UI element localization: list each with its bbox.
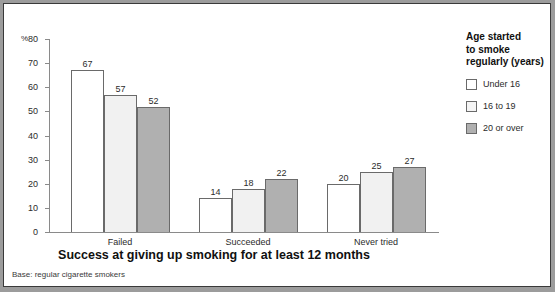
bar: 18 xyxy=(232,189,265,232)
legend-item: 16 to 19 xyxy=(466,101,551,112)
x-axis-line xyxy=(49,232,439,233)
legend: Age started to smoke regularly (years) U… xyxy=(466,31,551,145)
bar-value-label: 52 xyxy=(148,96,158,106)
x-axis-category-label: Never tried xyxy=(354,237,398,247)
y-axis-tick-label: 30 xyxy=(28,155,38,165)
bar: 27 xyxy=(393,167,426,232)
bar-value-label: 22 xyxy=(276,168,286,178)
y-axis-tick: 40 xyxy=(45,136,50,137)
x-axis-category-label: Succeeded xyxy=(225,237,270,247)
y-axis-tick: 70 xyxy=(45,63,50,64)
y-axis-tick: 30 xyxy=(45,160,50,161)
chart-frame: % 01020304050607080 675752Failed141822Su… xyxy=(3,3,551,287)
y-axis-tick: 50 xyxy=(45,111,50,112)
x-axis-category-label: Failed xyxy=(108,237,133,247)
bar: 57 xyxy=(104,95,137,233)
bar-group: 202527Never tried xyxy=(327,39,426,232)
bar: 67 xyxy=(71,70,104,232)
y-axis-tick-label: 10 xyxy=(28,203,38,213)
bar: 25 xyxy=(360,172,393,232)
bar-value-label: 20 xyxy=(338,173,348,183)
bar-group: 675752Failed xyxy=(71,39,170,232)
legend-item-label: 20 or over xyxy=(483,123,524,133)
bar-group: 141822Succeeded xyxy=(199,39,298,232)
chart-title: Success at giving up smoking for at leas… xyxy=(4,248,424,262)
y-axis-tick: 60 xyxy=(45,87,50,88)
y-axis-tick: 80 xyxy=(45,39,50,40)
bar-value-label: 57 xyxy=(115,84,125,94)
legend-swatch xyxy=(466,101,477,112)
bar-value-label: 25 xyxy=(371,161,381,171)
bar-value-label: 14 xyxy=(210,187,220,197)
bar: 14 xyxy=(199,198,232,232)
legend-swatch xyxy=(466,79,477,90)
legend-title-line-1: Age started xyxy=(466,31,551,44)
bar: 52 xyxy=(137,107,170,232)
y-axis-tick-label: 0 xyxy=(33,227,38,237)
y-axis-tick: 20 xyxy=(45,184,50,185)
y-axis-tick-label: 70 xyxy=(28,58,38,68)
legend-item: Under 16 xyxy=(466,79,551,90)
legend-item-label: Under 16 xyxy=(483,79,520,89)
legend-swatch xyxy=(466,123,477,134)
bar: 22 xyxy=(265,179,298,232)
figure-outer-border: % 01020304050607080 675752Failed141822Su… xyxy=(0,0,555,292)
bar-value-label: 27 xyxy=(404,156,414,166)
y-axis-tick-label: 80 xyxy=(28,34,38,44)
y-axis-tick-label: 40 xyxy=(28,131,38,141)
bar-value-label: 18 xyxy=(243,178,253,188)
y-axis-tick: 10 xyxy=(45,208,50,209)
legend-title-line-3: regularly (years) xyxy=(466,56,551,69)
bar-value-label: 67 xyxy=(82,59,92,69)
plot-area: 01020304050607080 675752Failed141822Succ… xyxy=(49,39,439,232)
y-axis-tick-label: 50 xyxy=(28,106,38,116)
y-axis-tick-label: 20 xyxy=(28,179,38,189)
y-axis-tick: 0 xyxy=(45,232,50,233)
legend-item-label: 16 to 19 xyxy=(483,101,516,111)
legend-title-line-2: to smoke xyxy=(466,44,551,57)
base-note: Base: regular cigarette smokers xyxy=(12,270,125,279)
bar: 20 xyxy=(327,184,360,232)
y-axis-tick-label: 60 xyxy=(28,82,38,92)
legend-items: Under 1616 to 1920 or over xyxy=(466,79,551,134)
legend-title: Age started to smoke regularly (years) xyxy=(466,31,551,69)
legend-item: 20 or over xyxy=(466,123,551,134)
